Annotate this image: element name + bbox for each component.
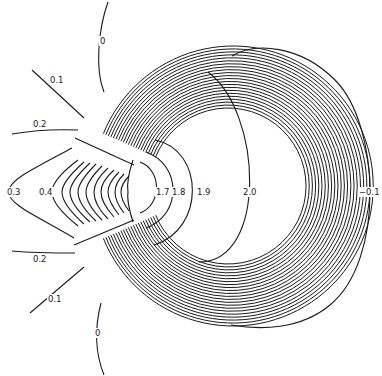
contour-0-1-bottom xyxy=(30,267,84,313)
contour-level-label: −0.1 xyxy=(359,187,380,197)
contour-level-label: 0.4 xyxy=(39,187,53,197)
radial-cuts xyxy=(74,138,134,245)
contour-0-bottom xyxy=(97,303,104,375)
ring-contour xyxy=(143,93,322,279)
ring-contour xyxy=(156,108,306,264)
ring-contour xyxy=(116,61,357,311)
contour-plot: 00.10.20.30.41.71.81.92.0−0.10.20.10 xyxy=(0,0,382,376)
ring-contour xyxy=(146,96,319,276)
contour-level-label: 0.1 xyxy=(48,294,62,304)
contour-level-label: 0 xyxy=(95,328,100,338)
ring-contour xyxy=(151,102,313,270)
contour-1-7 xyxy=(140,162,157,213)
ring-contours xyxy=(103,46,373,326)
left-contours xyxy=(8,148,133,238)
contour-level-label: 1.8 xyxy=(172,187,186,197)
contour-level-label: 1.9 xyxy=(197,187,211,197)
ring-contour xyxy=(106,49,370,323)
contour-0-2-bottom xyxy=(12,251,75,253)
contour-0-2-top xyxy=(12,130,78,134)
contour-level-label: 0.3 xyxy=(7,187,21,197)
contour-level-label: 2.0 xyxy=(243,187,257,197)
contour-level-label: 1.7 xyxy=(156,187,170,197)
contour-level-label: 0.1 xyxy=(50,75,64,85)
contour-0-top xyxy=(99,2,108,92)
contour-level-label: 0.2 xyxy=(33,254,47,264)
contour-level-label: 0 xyxy=(100,36,105,46)
contour-level-label: 0.2 xyxy=(33,119,47,129)
ring-contour xyxy=(153,105,309,267)
